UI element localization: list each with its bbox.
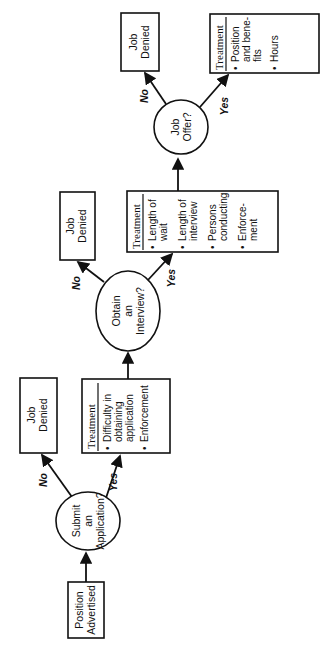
svg-text:•: • [230, 66, 241, 70]
svg-text:•: • [147, 245, 158, 249]
node-treatment-2: Treatment • Length of wait • Length of i… [127, 191, 278, 252]
svg-text:Job: Job [169, 118, 181, 135]
svg-text:Job: Job [25, 406, 37, 423]
svg-text:Job: Job [64, 217, 76, 234]
edge-label-yes: Yes [107, 473, 119, 491]
svg-text:Submit: Submit [70, 505, 82, 538]
svg-text:Treatment: Treatment [85, 404, 97, 449]
svg-text:•: • [102, 446, 113, 450]
svg-text:•: • [237, 245, 248, 249]
svg-text:fits: fits [252, 49, 263, 62]
svg-text:Obtain: Obtain [110, 295, 122, 326]
svg-text:an: an [82, 515, 94, 527]
svg-text:an: an [122, 305, 134, 317]
svg-text:Length of: Length of [147, 199, 158, 241]
svg-text:Enforcement: Enforcement [139, 385, 150, 442]
node-job-denied-3: Job Denied [121, 13, 159, 71]
svg-text:Interview?: Interview? [134, 287, 146, 335]
svg-text:obtaining: obtaining [113, 401, 124, 442]
svg-text:conducting: conducting [218, 193, 229, 241]
svg-text:Position: Position [73, 591, 85, 629]
svg-text:Denied: Denied [37, 398, 49, 431]
node-job-denied-2: Job Denied [60, 192, 95, 260]
svg-text:Persons: Persons [207, 204, 218, 241]
edge-label-no: No [138, 88, 150, 103]
svg-text:Position: Position [230, 26, 241, 62]
svg-text:Advertised: Advertised [85, 585, 97, 635]
svg-text:•: • [139, 446, 150, 450]
svg-text:Enforce-: Enforce- [237, 203, 248, 241]
node-job-denied-1: Job Denied [20, 378, 57, 453]
edge-label-no: No [70, 275, 82, 290]
svg-text:ment: ment [248, 219, 259, 241]
edge-label-no: No [37, 472, 49, 487]
svg-text:and bene-: and bene- [241, 17, 252, 62]
node-obtain-interview: Obtain an Interview? [96, 271, 160, 351]
svg-text:Treatment: Treatment [213, 25, 225, 70]
svg-text:Job: Job [127, 33, 139, 50]
node-position-advertised: Position Advertised [68, 582, 104, 638]
svg-text:Application?: Application? [94, 492, 106, 549]
svg-text:interview: interview [188, 201, 199, 241]
svg-text:Length of: Length of [177, 199, 188, 241]
svg-text:Denied: Denied [139, 25, 151, 58]
edge-label-yes: Yes [218, 97, 230, 115]
flowchart: No Yes No Yes No Yes Position Advertised… [0, 0, 327, 651]
node-treatment-1: Treatment • Difficulty in obtaining appl… [82, 379, 170, 453]
node-job-offer: Job Offer? [154, 100, 208, 154]
node-treatment-3: Treatment • Position and bene- fits • Ho… [210, 14, 319, 73]
edge-label-yes: Yes [165, 269, 177, 287]
svg-text:•: • [207, 245, 218, 249]
svg-text:application: application [124, 394, 135, 442]
svg-text:•: • [269, 66, 280, 70]
svg-text:Offer?: Offer? [181, 112, 193, 141]
svg-text:•: • [177, 245, 188, 249]
svg-text:Treatment: Treatment [130, 204, 142, 249]
svg-text:wait: wait [158, 223, 169, 242]
svg-text:Denied: Denied [76, 209, 88, 242]
svg-text:Hours: Hours [269, 35, 280, 62]
svg-text:Difficulty in: Difficulty in [102, 394, 113, 442]
node-submit-application: Submit an Application? [56, 492, 120, 550]
